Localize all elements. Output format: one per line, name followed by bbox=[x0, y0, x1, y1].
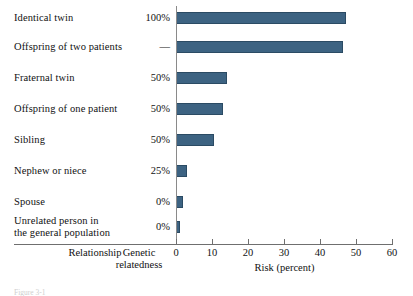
y-axis-line bbox=[176, 6, 177, 245]
row-relatedness-value: — bbox=[134, 41, 170, 53]
row-label: Spouse bbox=[14, 196, 134, 208]
bar bbox=[176, 134, 214, 146]
row-relatedness-value: 0% bbox=[134, 196, 170, 208]
row-label: Offspring of one patient bbox=[14, 103, 134, 115]
row-label: Identical twin bbox=[14, 12, 134, 24]
x-tick bbox=[248, 239, 249, 245]
x-tick bbox=[176, 239, 177, 245]
relatedness-column-header: Geneticrelatedness bbox=[104, 247, 174, 271]
bar bbox=[176, 12, 346, 24]
x-tick bbox=[284, 239, 285, 245]
bar bbox=[176, 103, 223, 115]
row-label: Fraternal twin bbox=[14, 72, 134, 84]
row-relatedness-value: 100% bbox=[134, 12, 170, 24]
relatedness-header-line2: relatedness bbox=[116, 259, 163, 270]
x-tick bbox=[392, 239, 393, 245]
table-row: Fraternal twin 50% bbox=[0, 72, 413, 98]
row-relatedness-value: 50% bbox=[134, 103, 170, 115]
bar bbox=[176, 196, 183, 208]
row-relatedness-value: 50% bbox=[134, 72, 170, 84]
x-tick bbox=[320, 239, 321, 245]
bar bbox=[176, 165, 187, 177]
row-label: Offspring of two patients bbox=[14, 41, 134, 53]
figure-genetic-risk-chart: Identical twin 100% Offspring of two pat… bbox=[0, 0, 413, 296]
x-tick-label: 40 bbox=[308, 247, 332, 258]
row-relatedness-value: 0% bbox=[134, 221, 170, 233]
row-relatedness-value: 25% bbox=[134, 165, 170, 177]
table-row: Offspring of two patients — bbox=[0, 41, 413, 67]
table-row: Sibling 50% bbox=[0, 134, 413, 160]
x-tick-label: 20 bbox=[236, 247, 260, 258]
bar-rows: Identical twin 100% Offspring of two pat… bbox=[0, 0, 413, 232]
relatedness-header-line1: Genetic bbox=[123, 247, 156, 258]
table-row: Identical twin 100% bbox=[0, 12, 413, 38]
row-label: Nephew or niece bbox=[14, 165, 134, 177]
x-tick-label: 60 bbox=[380, 247, 404, 258]
table-row: Nephew or niece 25% bbox=[0, 165, 413, 191]
table-separator-line bbox=[14, 244, 176, 245]
x-axis-title: Risk (percent) bbox=[176, 262, 393, 273]
row-label: Unrelated person in the general populati… bbox=[14, 215, 134, 239]
figure-caption: Figure 3-1 bbox=[14, 288, 394, 296]
x-tick-label: 30 bbox=[272, 247, 296, 258]
row-label: Sibling bbox=[14, 134, 134, 146]
x-tick bbox=[212, 239, 213, 245]
x-tick bbox=[356, 239, 357, 245]
bar bbox=[176, 72, 227, 84]
x-tick-label: 50 bbox=[344, 247, 368, 258]
table-row: Offspring of one patient 50% bbox=[0, 103, 413, 129]
bar bbox=[176, 41, 343, 53]
row-relatedness-value: 50% bbox=[134, 134, 170, 146]
x-tick-label: 10 bbox=[200, 247, 224, 258]
